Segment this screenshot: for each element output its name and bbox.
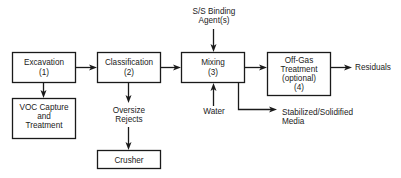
classification-label: Classification bbox=[105, 58, 154, 67]
mixing-label: Mixing bbox=[201, 58, 225, 67]
offgas-label-3: (optional) bbox=[282, 74, 316, 83]
voc-label-1: VOC Capture bbox=[19, 103, 69, 112]
binding-agent-label-1: S/S Binding bbox=[193, 7, 236, 16]
offgas-number: (4) bbox=[294, 83, 304, 92]
classification-number: (2) bbox=[124, 68, 134, 77]
water-label: Water bbox=[203, 107, 225, 116]
mixing-number: (3) bbox=[208, 68, 218, 77]
offgas-label-2: Treatment bbox=[280, 65, 318, 74]
crusher-label: Crusher bbox=[114, 156, 143, 165]
voc-label-3: Treatment bbox=[25, 121, 63, 130]
oversize-rejects-label-1: Oversize bbox=[113, 106, 146, 115]
excavation-number: (1) bbox=[39, 68, 49, 77]
offgas-label-1: Off-Gas bbox=[285, 56, 314, 65]
voc-label-2: and bbox=[37, 112, 51, 121]
stabilized-media-label-1: Stabilized/Solidified bbox=[282, 108, 353, 117]
residuals-label: Residuals bbox=[355, 63, 391, 72]
oversize-rejects-label-2: Rejects bbox=[115, 115, 142, 124]
excavation-label: Excavation bbox=[24, 58, 64, 67]
binding-agent-label-2: Agent(s) bbox=[199, 16, 230, 25]
stabilized-media-label-2: Media bbox=[282, 117, 305, 126]
process-flow-diagram: Excavation (1) Classification (2) Mixing… bbox=[0, 0, 401, 178]
